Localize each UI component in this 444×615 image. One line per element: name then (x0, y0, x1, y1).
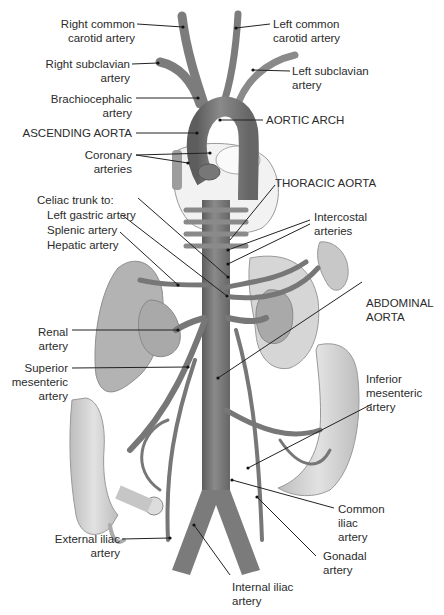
label-abdominal-aorta: ABDOMINAL AORTA (366, 296, 434, 324)
label-right-common-carotid: Right common carotid artery (35, 17, 135, 45)
label-line: mesenteric (366, 386, 422, 400)
label-coronary-arteries: Coronary arteries (40, 148, 132, 176)
label-line: AORTA (366, 310, 434, 324)
label-thoracic-aorta: THORACIC AORTA (275, 176, 376, 190)
label-line: Internal iliac (232, 580, 293, 594)
label-line: artery (292, 78, 369, 92)
label-intercostal-arteries: Intercostal arteries (314, 210, 367, 238)
label-line: Superior (5, 361, 68, 375)
label-line: Intercostal (314, 210, 367, 224)
label-line: artery (338, 530, 385, 544)
label-line: Left subclavian (292, 64, 369, 78)
spleen (318, 242, 349, 290)
label-line: Left common (273, 17, 340, 31)
label-splenic-artery: Splenic artery (47, 223, 117, 237)
label-celiac-trunk: Celiac trunk to: (37, 193, 114, 207)
label-renal-artery: Renal artery (10, 325, 68, 353)
label-line: artery (232, 594, 293, 608)
label-aortic-arch: AORTIC ARCH (266, 113, 344, 127)
label-line: artery (366, 400, 422, 414)
label-line: mesenteric (5, 375, 68, 389)
label-right-subclavian: Right subclavian artery (20, 57, 130, 85)
label-superior-mesenteric-artery: Superior mesenteric artery (5, 361, 68, 403)
label-line: arteries (40, 162, 132, 176)
label-line: Brachiocephalic (20, 92, 132, 106)
label-line: artery (10, 339, 68, 353)
label-line: Right subclavian (20, 57, 130, 71)
label-left-common-carotid: Left common carotid artery (273, 17, 340, 45)
label-line: artery (323, 563, 366, 577)
label-line: ABDOMINAL (366, 296, 434, 310)
label-line: carotid artery (35, 31, 135, 45)
label-line: artery (20, 106, 132, 120)
label-line: artery (5, 389, 68, 403)
label-ascending-aorta: ASCENDING AORTA (10, 126, 132, 140)
label-line: arteries (314, 224, 367, 238)
label-line: Coronary (40, 148, 132, 162)
label-line: External iliac (20, 532, 120, 546)
label-left-gastric-artery: Left gastric artery (47, 208, 136, 222)
ascending-colon (70, 398, 163, 542)
label-left-subclavian: Left subclavian artery (292, 64, 369, 92)
label-line: Inferior (366, 372, 422, 386)
label-brachiocephalic: Brachiocephalic artery (20, 92, 132, 120)
label-inferior-mesenteric-artery: Inferior mesenteric artery (366, 372, 422, 414)
label-line: Common (338, 502, 385, 516)
label-line: iliac (338, 516, 385, 530)
label-line: artery (20, 71, 130, 85)
label-internal-iliac-artery: Internal iliac artery (232, 580, 293, 608)
label-gonadal-artery: Gonadal artery (323, 549, 366, 577)
label-line: Gonadal (323, 549, 366, 563)
label-hepatic-artery: Hepatic artery (47, 238, 119, 252)
label-line: artery (20, 546, 120, 560)
label-common-iliac-artery: Common iliac artery (338, 502, 385, 544)
label-line: carotid artery (273, 31, 340, 45)
label-line: Renal (10, 325, 68, 339)
label-external-iliac-artery: External iliac artery (20, 532, 120, 560)
label-line: Right common (35, 17, 135, 31)
